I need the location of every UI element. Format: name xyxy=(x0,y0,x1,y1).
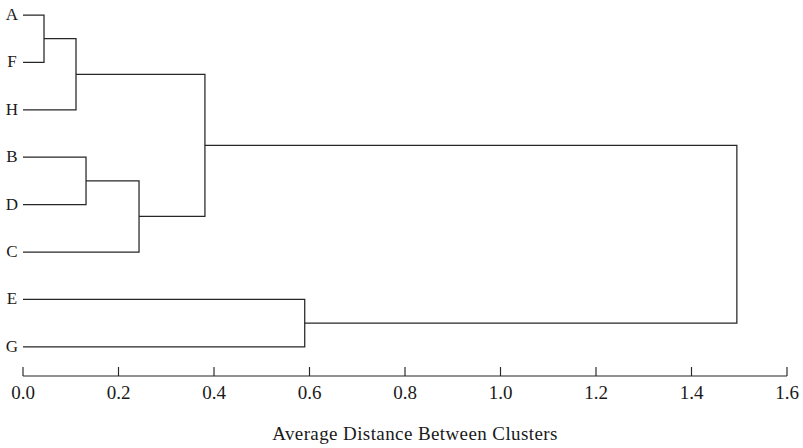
x-tick-label-8: 1.6 xyxy=(775,382,799,403)
x-tick-label-3: 0.6 xyxy=(298,382,322,403)
leaf-label-f: F xyxy=(7,52,16,71)
x-tick-label-5: 1.0 xyxy=(489,382,513,403)
merge-link-m7 xyxy=(205,145,737,323)
leaf-label-h: H xyxy=(6,100,18,119)
leaf-label-a: A xyxy=(6,5,19,24)
x-tick-label-7: 1.4 xyxy=(680,382,704,403)
x-tick-label-4: 0.8 xyxy=(393,382,417,403)
x-tick-label-0: 0.0 xyxy=(11,382,35,403)
leaf-label-d: D xyxy=(6,195,18,214)
merge-link-m6 xyxy=(23,299,305,346)
tree-links xyxy=(23,15,737,347)
leaf-label-b: B xyxy=(6,147,17,166)
x-tick-label-1: 0.2 xyxy=(107,382,131,403)
x-tick-label-6: 1.2 xyxy=(584,382,608,403)
x-axis-title: Average Distance Between Clusters xyxy=(272,423,558,444)
merge-link-m4 xyxy=(23,181,139,252)
dendrogram-plot: AFHBDCEG 0.00.20.40.60.81.01.21.41.6 Ave… xyxy=(0,0,803,448)
leaf-label-c: C xyxy=(6,242,17,261)
dendrogram-figure: AFHBDCEG 0.00.20.40.60.81.01.21.41.6 Ave… xyxy=(0,0,803,448)
merge-link-m1 xyxy=(23,15,44,62)
x-tick-label-2: 0.4 xyxy=(202,382,226,403)
leaf-labels: AFHBDCEG xyxy=(6,5,19,356)
merge-link-m3 xyxy=(23,157,86,204)
merge-link-m5 xyxy=(76,74,205,216)
x-axis: 0.00.20.40.60.81.01.21.41.6 xyxy=(11,367,799,403)
leaf-label-e: E xyxy=(7,289,17,308)
leaf-label-g: G xyxy=(6,337,18,356)
merge-link-m2 xyxy=(23,39,76,110)
